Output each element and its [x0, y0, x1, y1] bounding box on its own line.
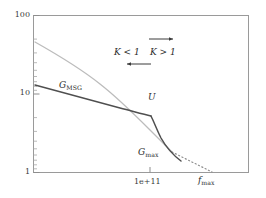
curve-label-gmsg: GMSG: [59, 81, 82, 90]
y-axis-minor-ticks: [34, 39, 38, 169]
series-gmsg-curve: [35, 85, 151, 116]
y-tick-label-1: 1: [5, 168, 30, 176]
fmax-sub: max: [201, 179, 214, 186]
k-greater-text: K > 1: [150, 47, 176, 57]
gmax-sub: max: [145, 151, 158, 158]
arrow-right-icon: [149, 37, 173, 41]
figure-container: 100 10 1 1e+11 fmax GMSG U Gmax K < 1 K …: [0, 0, 266, 198]
chart-canvas: [0, 0, 266, 198]
y-tick-label-100: 100: [5, 11, 30, 19]
annotation-k-greater-than-one: K > 1: [150, 48, 176, 57]
y-tick-label-10: 10: [5, 89, 30, 97]
x-axis-fmax-label: fmax: [198, 176, 214, 185]
curve-label-u: U: [148, 93, 156, 102]
gmsg-sub: MSG: [66, 84, 82, 91]
curve-label-gmax: Gmax: [138, 148, 159, 157]
k-less-text: K < 1: [114, 47, 140, 57]
series-u-extrapolated: [172, 152, 212, 172]
arrow-left-icon: [127, 62, 151, 66]
annotation-k-less-than-one: K < 1: [114, 48, 140, 57]
x-tick-label-1e11: 1e+11: [134, 178, 161, 186]
